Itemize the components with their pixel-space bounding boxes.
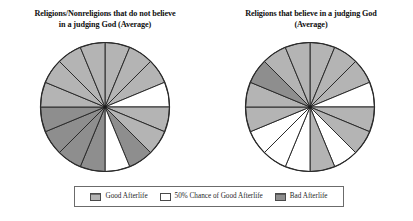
chart-legend: Good Afterlife 50% Chance of Good Afterl… bbox=[74, 186, 344, 207]
pie-chart-right bbox=[243, 40, 377, 174]
legend-label-half-chance: 50% Chance of Good Afterlife bbox=[175, 192, 263, 201]
legend-label-good-afterlife: Good Afterlife bbox=[105, 192, 147, 201]
pie-chart-left-svg bbox=[38, 40, 172, 174]
legend-item-bad-afterlife: Bad Afterlife bbox=[275, 192, 328, 201]
chart-title-left-line1: Religions/Nonreligions that do not belie… bbox=[6, 9, 204, 20]
bad-afterlife-swatch-icon bbox=[275, 193, 286, 201]
good-afterlife-swatch-icon bbox=[90, 193, 101, 201]
chart-title-left: Religions/Nonreligions that do not belie… bbox=[6, 9, 204, 30]
pie-center-hub bbox=[308, 105, 311, 108]
chart-title-left-line2: in a judging God (Average) bbox=[6, 20, 204, 31]
pie-chart-right-svg bbox=[243, 40, 377, 174]
chart-title-right: Religions that believe in a judging God … bbox=[213, 9, 409, 30]
chart-title-right-line2: (Average) bbox=[213, 20, 409, 31]
half-chance-swatch-icon bbox=[160, 193, 171, 201]
legend-label-bad-afterlife: Bad Afterlife bbox=[290, 192, 328, 201]
legend-item-half-chance: 50% Chance of Good Afterlife bbox=[160, 192, 263, 201]
figure-canvas: Religions/Nonreligions that do not belie… bbox=[0, 0, 413, 221]
chart-title-right-line1: Religions that believe in a judging God bbox=[213, 9, 409, 20]
pie-chart-left bbox=[38, 40, 172, 174]
legend-item-good-afterlife: Good Afterlife bbox=[90, 192, 147, 201]
pie-center-hub bbox=[103, 105, 106, 108]
